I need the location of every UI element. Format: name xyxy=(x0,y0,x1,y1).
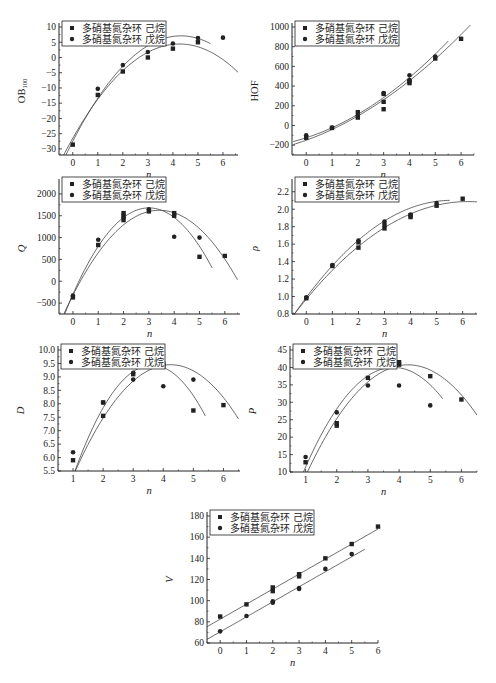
y-tick-label: 5.5 xyxy=(43,466,55,476)
data-point-circle xyxy=(304,133,309,138)
y-tick-label: 2.0 xyxy=(277,205,289,215)
y-tick-label: 25 xyxy=(278,415,288,425)
data-point-circle xyxy=(197,235,202,240)
data-point-circle xyxy=(356,113,361,118)
data-point-circle xyxy=(397,383,402,388)
y-tick-label: 35 xyxy=(278,380,288,390)
legend-circle-marker-icon xyxy=(303,37,307,41)
data-point-circle xyxy=(366,383,371,388)
x-axis-label: n xyxy=(146,485,151,496)
data-point-square xyxy=(428,374,432,378)
x-tick-label: 1 xyxy=(244,646,249,656)
y-tick-label: 80 xyxy=(195,617,205,627)
subplot-v: 01234566080100120140160180nV多硝基氮杂环 己烷多硝基… xyxy=(164,510,381,668)
y-tick-label: 120 xyxy=(190,575,205,585)
data-point-circle xyxy=(407,73,412,78)
fit-curve-pentane xyxy=(62,208,213,322)
x-tick-label: 1 xyxy=(330,158,335,168)
data-point-circle xyxy=(96,237,101,242)
y-axis-label: P xyxy=(247,407,258,415)
x-tick-label: 2 xyxy=(355,158,360,168)
x-tick-label: 3 xyxy=(297,646,302,656)
y-tick-label: 10 xyxy=(278,467,288,477)
x-tick-label: 2 xyxy=(334,475,339,485)
data-point-circle xyxy=(297,586,302,591)
y-tick-label: 0 xyxy=(51,53,56,63)
data-point-square xyxy=(96,243,100,247)
x-tick-label: 4 xyxy=(171,158,176,168)
data-point-circle xyxy=(218,629,223,634)
legend-label-pentane: 多硝基氮杂环 戊烷 xyxy=(315,33,398,45)
fit-curve-pentane xyxy=(64,36,210,159)
x-tick-label: 6 xyxy=(222,317,227,327)
data-point-square xyxy=(191,408,195,412)
y-tick-label: 500 xyxy=(42,255,57,265)
data-point-square xyxy=(223,254,227,258)
data-point-circle xyxy=(356,238,361,243)
y-tick-label: 800 xyxy=(275,42,290,52)
data-point-square xyxy=(71,458,75,462)
y-tick-label: 1.6 xyxy=(277,239,289,249)
data-point-square xyxy=(196,40,200,44)
y-tick-label: −500 xyxy=(36,298,56,308)
data-point-square xyxy=(459,397,463,401)
data-point-square xyxy=(121,69,125,73)
legend-label-hexane: 多硝基氮杂环 己烷 xyxy=(82,178,165,190)
y-axis-label: Q xyxy=(16,244,27,252)
data-point-circle xyxy=(147,207,152,212)
y-axis-label-sub: 100 xyxy=(21,79,28,89)
data-point-circle xyxy=(71,450,76,455)
legend-label-hexane: 多硝基氮杂环 己烷 xyxy=(230,511,313,523)
x-tick-label: 4 xyxy=(172,317,177,327)
x-tick-label: 1 xyxy=(330,317,335,327)
x-tick-label: 2 xyxy=(101,474,106,484)
data-point-square xyxy=(356,245,360,249)
y-tick-label: 10.0 xyxy=(38,345,55,355)
data-point-circle xyxy=(349,552,354,557)
y-tick-label: 1.4 xyxy=(277,257,289,267)
legend-label-hexane: 多硝基氮杂环 己烷 xyxy=(315,22,398,34)
x-tick-label: 6 xyxy=(459,475,464,485)
y-tick-label: 30 xyxy=(278,398,288,408)
data-point-square xyxy=(460,197,464,201)
legend-label-pentane: 多硝基氮杂环 戊烷 xyxy=(315,189,398,201)
fit-curve-hexane xyxy=(292,202,477,318)
y-tick-label: 1500 xyxy=(37,211,56,221)
x-tick-label: 0 xyxy=(71,317,76,327)
legend-label-pentane: 多硝基氮杂环 戊烷 xyxy=(81,356,164,368)
y-tick-label: −15 xyxy=(41,98,56,108)
x-tick-label: 5 xyxy=(191,474,196,484)
x-tick-label: 2 xyxy=(120,158,125,168)
data-point-square xyxy=(96,93,100,97)
fit-curve-pentane xyxy=(67,365,205,494)
data-point-circle xyxy=(71,293,76,298)
x-tick-label: 5 xyxy=(434,317,439,327)
data-point-circle xyxy=(434,201,439,206)
y-axis-label: D xyxy=(15,406,26,415)
y-axis-label: ρ xyxy=(249,246,260,252)
y-tick-label: −5 xyxy=(46,68,56,78)
x-tick-label: 6 xyxy=(376,646,381,656)
x-tick-label: 5 xyxy=(197,317,202,327)
y-tick-label: −20 xyxy=(41,114,56,124)
y-tick-label: 2.2 xyxy=(277,187,289,197)
y-tick-label: 0 xyxy=(284,121,289,131)
x-tick-label: 4 xyxy=(161,474,166,484)
data-point-circle xyxy=(221,35,226,40)
legend-circle-marker-icon xyxy=(303,193,307,197)
legend-label-pentane: 多硝基氮杂环 戊烷 xyxy=(230,522,313,534)
fit-curve-pentane xyxy=(293,200,449,315)
y-tick-label: −200 xyxy=(269,140,289,150)
data-point-circle xyxy=(408,212,413,217)
data-point-circle xyxy=(323,567,328,572)
data-point-square xyxy=(171,46,175,50)
y-tick-label: 1.8 xyxy=(277,222,289,232)
data-point-square xyxy=(303,460,307,464)
chart-figure: 0123456−30−25−20−15−10−50510nOB100多硝基氮杂环… xyxy=(0,0,496,683)
x-tick-label: 6 xyxy=(460,317,465,327)
x-axis-label: n xyxy=(382,328,387,339)
y-tick-label: 1.2 xyxy=(277,274,289,284)
x-tick-label: 3 xyxy=(146,317,151,327)
y-tick-label: 8.0 xyxy=(43,399,55,409)
x-tick-label: 6 xyxy=(221,474,226,484)
